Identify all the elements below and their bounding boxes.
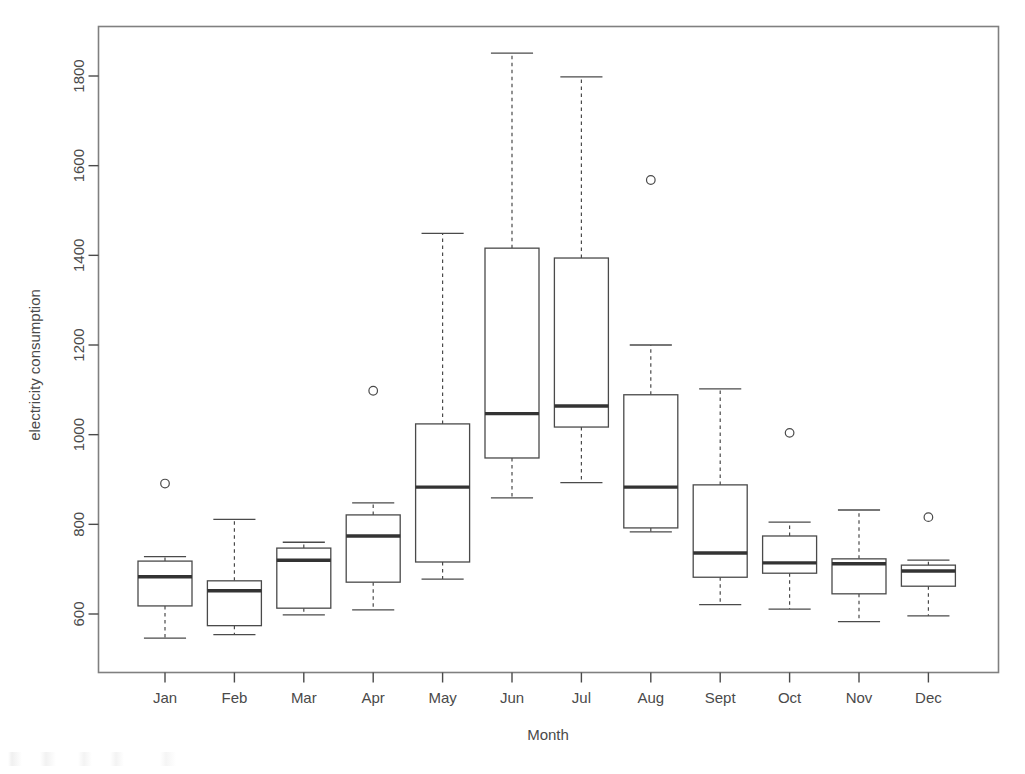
boxplot-sept <box>693 389 747 605</box>
y-tick-label: 1800 <box>70 59 87 92</box>
box-iqr <box>763 536 817 573</box>
boxes-layer <box>138 53 955 638</box>
x-tick-label-oct: Oct <box>778 689 802 706</box>
box-iqr <box>485 248 539 458</box>
y-tick-label: 1000 <box>70 418 87 451</box>
y-tick-label: 600 <box>70 601 87 626</box>
x-axis: JanFebMarAprMayJunJulAugSeptOctNovDec <box>153 673 942 706</box>
boxplot-jun <box>485 53 539 498</box>
boxplot-may <box>416 233 470 579</box>
outlier-point <box>161 479 170 488</box>
boxplot-aug <box>624 176 678 532</box>
box-iqr <box>901 565 955 586</box>
x-tick-label-jul: Jul <box>572 689 591 706</box>
boxplot-jan <box>138 479 192 638</box>
y-tick-label: 1400 <box>70 239 87 272</box>
outlier-point <box>647 176 656 185</box>
outlier-point <box>785 429 794 438</box>
x-tick-label-mar: Mar <box>291 689 317 706</box>
outlier-point <box>924 513 933 522</box>
x-tick-label-apr: Apr <box>362 689 385 706</box>
x-tick-label-dec: Dec <box>915 689 942 706</box>
box-iqr <box>277 548 331 608</box>
y-tick-label: 1200 <box>70 328 87 361</box>
boxplot-apr <box>346 386 400 610</box>
box-iqr <box>693 485 747 577</box>
boxplot-oct <box>763 429 817 609</box>
boxplot-figure: 60080010001200140016001800 JanFebMarAprM… <box>0 0 1025 774</box>
boxplot-nov <box>832 510 886 622</box>
x-tick-label-nov: Nov <box>846 689 873 706</box>
box-iqr <box>416 424 470 562</box>
x-tick-label-sept: Sept <box>705 689 737 706</box>
y-axis-title: electricity consumption <box>26 289 43 441</box>
y-axis: 60080010001200140016001800 <box>70 59 98 626</box>
box-iqr <box>624 395 678 528</box>
x-tick-label-jun: Jun <box>500 689 524 706</box>
x-tick-label-jan: Jan <box>153 689 177 706</box>
boxplot-canvas: 60080010001200140016001800 JanFebMarAprM… <box>0 0 1025 774</box>
x-tick-label-feb: Feb <box>221 689 247 706</box>
boxplot-dec <box>901 513 955 616</box>
boxplot-feb <box>207 519 261 634</box>
boxplot-jul <box>554 77 608 483</box>
outlier-point <box>369 386 378 395</box>
x-axis-title: Month <box>527 726 569 743</box>
x-tick-label-may: May <box>428 689 457 706</box>
y-tick-label: 1600 <box>70 149 87 182</box>
box-iqr <box>554 258 608 427</box>
box-iqr <box>346 515 400 582</box>
y-tick-label: 800 <box>70 512 87 537</box>
box-iqr <box>138 561 192 606</box>
x-tick-label-aug: Aug <box>637 689 664 706</box>
box-iqr <box>207 581 261 626</box>
boxplot-mar <box>277 542 331 615</box>
